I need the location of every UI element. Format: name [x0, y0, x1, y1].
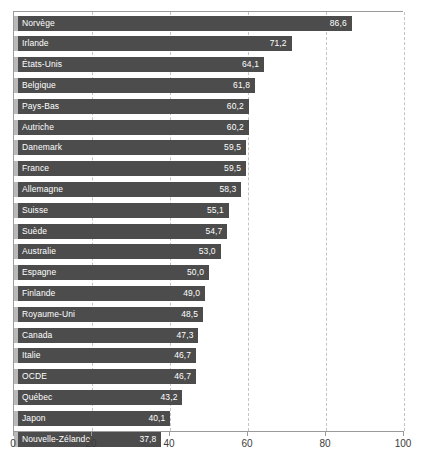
- x-tick-mark-80: [325, 431, 326, 436]
- bar-body: Québec43,2: [18, 390, 182, 405]
- bar-body: OCDE46,7: [18, 369, 196, 384]
- x-tick-label: 0: [10, 438, 16, 449]
- bar-category-label: Norvège: [22, 16, 55, 31]
- bar-body: Danemark59,5: [18, 140, 246, 155]
- bar-row: Canada47,3: [14, 328, 198, 343]
- bar-body: Pays-Bas60,2: [18, 99, 249, 114]
- bar-value-label: 71,2: [270, 36, 287, 51]
- plot-area: Norvège86,6Irlande71,2États-Unis64,1Belg…: [13, 11, 403, 432]
- bar-value-label: 58,3: [219, 182, 236, 197]
- bar-body: Irlande71,2: [18, 36, 292, 51]
- bar-value-label: 46,7: [174, 369, 191, 384]
- bar-body: États-Unis64,1: [18, 57, 264, 72]
- bar-category-label: Belgique: [22, 78, 56, 93]
- bar-row: Norvège86,6: [14, 16, 352, 31]
- x-tick-label: 40: [163, 438, 174, 449]
- bar-body: Italie46,7: [18, 348, 196, 363]
- bar-value-label: 59,5: [224, 140, 241, 155]
- bar-row: Australie53,0: [14, 244, 221, 259]
- bar-row: OCDE46,7: [14, 369, 196, 384]
- bar-value-label: 86,6: [330, 16, 347, 31]
- x-tick-mark-60: [247, 431, 248, 436]
- bar-category-label: Irlande: [22, 36, 49, 51]
- bar-row: Finlande49,0: [14, 286, 205, 301]
- x-tick-mark-20: [91, 431, 92, 436]
- bar-value-label: 50,0: [187, 265, 204, 280]
- x-tick-label: 100: [395, 438, 412, 449]
- bar-body: Suède54,7: [18, 224, 227, 239]
- bar-value-label: 54,7: [205, 224, 222, 239]
- bar-category-label: Espagne: [22, 265, 56, 280]
- bar-body: Allemagne58,3: [18, 182, 241, 197]
- bar-row: États-Unis64,1: [14, 57, 264, 72]
- bar-value-label: 49,0: [183, 286, 200, 301]
- bar-row: France59,5: [14, 161, 246, 176]
- bar-body: Royaume-Uni48,5: [18, 307, 203, 322]
- bar-value-label: 59,5: [224, 161, 241, 176]
- bar-row: Danemark59,5: [14, 140, 246, 155]
- bar-category-label: Québec: [22, 390, 52, 405]
- bar-row: Allemagne58,3: [14, 182, 241, 197]
- bar-row: Royaume-Uni48,5: [14, 307, 203, 322]
- bar-value-label: 43,2: [161, 390, 178, 405]
- bar-value-label: 47,3: [177, 328, 194, 343]
- bar-row: Québec43,2: [14, 390, 182, 405]
- bar-body: Japon40,1: [18, 411, 170, 426]
- bar-row: Suède54,7: [14, 224, 227, 239]
- bar-category-label: OCDE: [22, 369, 47, 384]
- bar-body: Belgique61,8: [18, 78, 255, 93]
- bar-row: Italie46,7: [14, 348, 196, 363]
- bar-body: Suisse55,1: [18, 203, 229, 218]
- bar-value-label: 61,8: [233, 78, 250, 93]
- bar-row: Espagne50,0: [14, 265, 209, 280]
- bars-container: Norvège86,6Irlande71,2États-Unis64,1Belg…: [14, 12, 403, 431]
- bar-row: Pays-Bas60,2: [14, 99, 249, 114]
- bar-category-label: Italie: [22, 348, 41, 363]
- bar-value-label: 60,2: [227, 120, 244, 135]
- bar-row: Suisse55,1: [14, 203, 229, 218]
- bar-body: Espagne50,0: [18, 265, 209, 280]
- bar-category-label: Danemark: [22, 140, 62, 155]
- bar-row: Belgique61,8: [14, 78, 255, 93]
- bar-body: Autriche60,2: [18, 120, 249, 135]
- bar-chart: Norvège86,6Irlande71,2États-Unis64,1Belg…: [0, 0, 425, 466]
- bar-row: Japon40,1: [14, 411, 170, 426]
- bar-category-label: Allemagne: [22, 182, 63, 197]
- bar-category-label: France: [22, 161, 49, 176]
- x-tick-mark-40: [169, 431, 170, 436]
- bar-value-label: 64,1: [242, 57, 259, 72]
- bar-row: Autriche60,2: [14, 120, 249, 135]
- x-tick-label: 60: [241, 438, 252, 449]
- bar-category-label: Japon: [22, 411, 46, 426]
- x-tick-mark-0: [13, 431, 14, 436]
- x-tick-label: 20: [85, 438, 96, 449]
- bar-value-label: 55,1: [207, 203, 224, 218]
- bar-body: Finlande49,0: [18, 286, 205, 301]
- bar-category-label: Royaume-Uni: [22, 307, 75, 322]
- x-tick-mark-100: [403, 431, 404, 436]
- bar-category-label: Autriche: [22, 120, 54, 135]
- bar-category-label: États-Unis: [22, 57, 62, 72]
- bar-category-label: Australie: [22, 244, 56, 259]
- bar-category-label: Finlande: [22, 286, 55, 301]
- bar-body: Norvège86,6: [18, 16, 352, 31]
- bar-category-label: Pays-Bas: [22, 99, 59, 114]
- x-tick-label: 80: [319, 438, 330, 449]
- bar-value-label: 53,0: [199, 244, 216, 259]
- bar-body: Canada47,3: [18, 328, 198, 343]
- bar-body: Australie53,0: [18, 244, 221, 259]
- bar-value-label: 48,5: [181, 307, 198, 322]
- x-axis: 020406080100: [13, 431, 403, 465]
- bar-value-label: 46,7: [174, 348, 191, 363]
- bar-category-label: Suède: [22, 224, 47, 239]
- gridline-100: [404, 12, 405, 431]
- bar-category-label: Suisse: [22, 203, 48, 218]
- bar-value-label: 60,2: [227, 99, 244, 114]
- bar-body: France59,5: [18, 161, 246, 176]
- bar-row: Irlande71,2: [14, 36, 292, 51]
- bar-value-label: 40,1: [148, 411, 165, 426]
- bar-category-label: Canada: [22, 328, 52, 343]
